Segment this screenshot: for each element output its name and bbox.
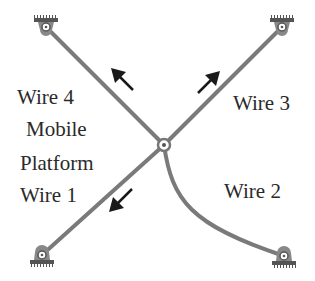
label-wire-2: Wire 2 [224,181,281,202]
mobile-platform-node-icon [158,139,170,151]
label-wire-4: Wire 4 [17,87,74,108]
wire-mechanism-diagram: Wire 4 Mobile Platform Wire 1 Wire 3 Wir… [0,0,315,281]
label-wire-1: Wire 1 [20,185,77,206]
anchor-bottom-right-icon [272,246,296,268]
label-wire-3: Wire 3 [233,93,290,114]
label-platform: Platform [20,153,94,174]
wire-3-line [164,27,282,145]
arrow-wire-4-icon [111,68,133,90]
label-mobile: Mobile [26,119,87,140]
